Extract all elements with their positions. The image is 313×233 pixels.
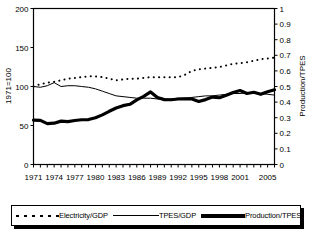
y-axis-right-tick-label: 0.2 xyxy=(280,129,292,138)
x-axis-tick-label: 1992 xyxy=(169,173,187,182)
plot-frame xyxy=(34,9,275,165)
x-axis-tick-label: 2005 xyxy=(259,173,277,182)
y-axis-right-tick-label: 0.1 xyxy=(280,145,292,154)
y-axis-right-tick-label: 0.3 xyxy=(280,114,292,123)
legend-label-electricity-gdp: Electricity/GDP xyxy=(59,212,108,220)
y-axis-left-labels: 050100150200 xyxy=(15,5,29,170)
legend-item-production-tpes: Production/TPES xyxy=(196,211,301,220)
x-axis-tick-label: 2001 xyxy=(231,173,249,182)
legend-label-production-tpes: Production/TPES xyxy=(245,212,301,220)
y-axis-left-title: 1971=100 xyxy=(4,68,13,104)
y-axis-left-tick-label: 50 xyxy=(20,122,29,131)
y-axis-left-tick-label: 100 xyxy=(15,83,29,92)
y-axis-right-tick-label: 0.9 xyxy=(280,20,292,29)
chart-figure: 050100150200 00.10.20.30.40.50.60.70.80.… xyxy=(0,0,313,233)
x-axis-tick-label: 1998 xyxy=(211,173,229,182)
legend-label-tpes-gdp: TPES/GDP xyxy=(159,212,196,220)
y-axis-right-tick-label: 0.8 xyxy=(280,36,292,45)
y-axis-right-tick-label: 0.7 xyxy=(280,51,292,60)
x-axis-tick-label: 1986 xyxy=(128,173,146,182)
legend-item-electricity-gdp: Electricity/GDP xyxy=(12,211,108,220)
x-axis-tick-label: 1983 xyxy=(107,173,125,182)
x-axis-labels: 1971197419771980198319861989199219951998… xyxy=(25,173,277,182)
y-axis-right-tick-label: 0.5 xyxy=(280,83,292,92)
y-axis-right-tick-label: 1 xyxy=(280,5,285,14)
x-axis-tick-label: 1995 xyxy=(190,173,208,182)
legend-item-tpes-gdp: TPES/GDP xyxy=(108,211,196,220)
x-axis-tick-label: 1989 xyxy=(149,173,167,182)
y-axis-left-tick-label: 200 xyxy=(15,5,29,14)
y-axis-right-tick-label: 0 xyxy=(280,161,285,170)
chart-legend: Electricity/GDP TPES/GDP Production/TPES xyxy=(11,205,301,226)
x-axis-tick-label: 1977 xyxy=(66,173,84,182)
legend-swatch-thick-line-icon xyxy=(201,211,245,220)
y-axis-right-labels: 00.10.20.30.40.50.60.70.80.91 xyxy=(280,5,292,170)
legend-swatch-dotted-icon xyxy=(16,211,59,220)
x-axis-tick-label: 1971 xyxy=(25,173,43,182)
y-axis-right-title: Production/TPES xyxy=(298,55,307,116)
line-chart: 050100150200 00.10.20.30.40.50.60.70.80.… xyxy=(0,0,313,200)
y-axis-left-tick-label: 150 xyxy=(15,44,29,53)
y-axis-left-tick-label: 0 xyxy=(24,161,29,170)
x-axis-tick-label: 1974 xyxy=(45,173,63,182)
x-axis-tick-label: 1980 xyxy=(87,173,105,182)
y-axis-right-tick-label: 0.4 xyxy=(280,98,292,107)
legend-swatch-thin-line-icon xyxy=(113,211,159,220)
y-axis-right-tick-label: 0.6 xyxy=(280,67,292,76)
